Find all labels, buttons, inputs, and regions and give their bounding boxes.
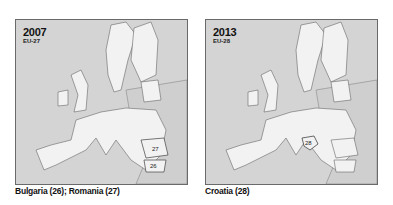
panel-eu-label: EU-27: [23, 38, 40, 44]
map-panel-2007: 27 26 2007 EU-27: [15, 19, 188, 185]
panel-year: 2013: [213, 26, 236, 38]
label-bulgaria: 26: [150, 163, 157, 169]
europe-map-2013: 28: [206, 20, 377, 184]
panel-eu-label: EU-28: [213, 38, 230, 44]
panel-caption: Bulgaria (26); Romania (27): [15, 186, 120, 196]
label-romania: 27: [152, 146, 159, 152]
panel-caption: Croatia (28): [205, 186, 249, 196]
panel-year: 2007: [23, 26, 46, 38]
europe-map-2007: 27 26: [16, 20, 187, 184]
label-croatia: 28: [305, 140, 312, 146]
map-panel-2013: 28 2013 EU-28: [205, 19, 378, 185]
